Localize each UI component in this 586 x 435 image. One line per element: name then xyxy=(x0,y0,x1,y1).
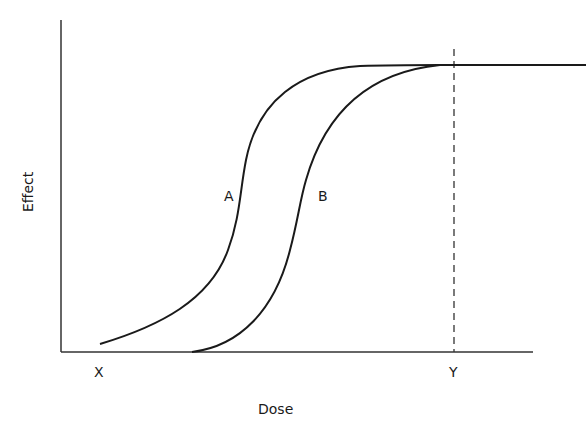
curve-a-label: A xyxy=(224,188,234,204)
curve-b xyxy=(192,65,586,352)
x-tick-x: X xyxy=(94,364,104,380)
dose-response-chart: A B X Y Dose Effect xyxy=(0,0,586,435)
curve-b-label: B xyxy=(318,188,328,204)
curve-a xyxy=(100,65,440,344)
x-tick-y: Y xyxy=(448,364,458,380)
y-axis-label: Effect xyxy=(20,171,36,212)
x-axis-label: Dose xyxy=(258,401,293,417)
